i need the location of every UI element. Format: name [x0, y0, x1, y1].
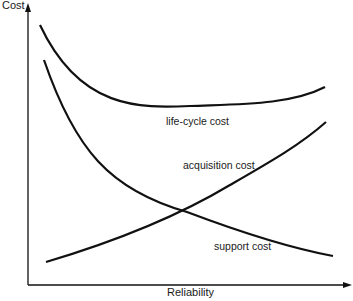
support-cost-label: support cost: [214, 240, 271, 252]
life-cycle-cost-label: life-cycle cost: [166, 115, 229, 127]
y-axis-arrow-icon: [25, 3, 31, 12]
acquisition-cost-curve: [46, 122, 326, 262]
x-axis-label: Reliability: [167, 286, 214, 298]
y-axis-label: Cost: [2, 0, 25, 11]
support-cost-curve: [44, 60, 333, 256]
axes: [28, 8, 346, 285]
life-cycle-cost-curve: [40, 25, 325, 107]
x-axis-arrow-icon: [343, 282, 352, 288]
chart-canvas: [0, 0, 353, 301]
acquisition-cost-label: acquisition cost: [183, 159, 255, 171]
